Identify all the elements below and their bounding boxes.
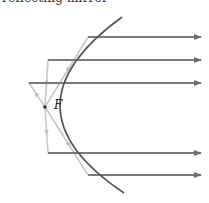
diagram-canvas — [0, 0, 209, 203]
focus-point-icon — [43, 105, 47, 109]
caption-partial: reflecting mirror — [2, 0, 108, 5]
parabolic-mirror-diagram: reflecting mirror F — [0, 0, 209, 203]
parabolic-mirror — [60, 17, 124, 193]
direction-arrow-icon — [36, 94, 38, 96]
focus-label: F — [54, 98, 62, 112]
